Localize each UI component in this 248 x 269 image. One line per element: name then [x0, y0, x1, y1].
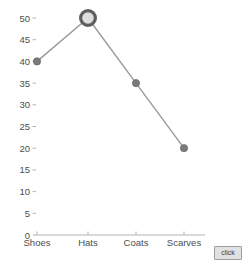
series-line-path: [37, 18, 184, 148]
click-button[interactable]: click: [214, 246, 242, 260]
data-point-markers[interactable]: [33, 11, 187, 152]
data-point-shoes[interactable]: [33, 58, 40, 65]
chart-canvas: 50 45 40 35 30 25 20 15 10 5 0: [0, 0, 248, 269]
data-point-scarves[interactable]: [180, 145, 187, 152]
x-axis-tick-labels: Shoes Hats Coats Scarves: [24, 237, 202, 248]
y-tick-label: 40: [19, 56, 30, 67]
y-tick-label: 25: [19, 121, 30, 132]
x-axis-tick-marks: [37, 232, 184, 236]
y-tick-label: 10: [19, 186, 30, 197]
y-tick-label: 5: [25, 208, 30, 219]
x-tick-label-hats: Hats: [78, 237, 98, 248]
x-tick-label-shoes: Shoes: [24, 237, 51, 248]
data-point-coats[interactable]: [132, 80, 139, 87]
x-tick-label-scarves: Scarves: [167, 237, 202, 248]
y-tick-label: 35: [19, 78, 30, 89]
y-axis-tick-labels: 50 45 40 35 30 25 20 15 10 5 0: [19, 13, 30, 241]
data-point-hats-selected[interactable]: [81, 11, 96, 26]
x-tick-label-coats: Coats: [124, 237, 149, 248]
y-tick-label: 50: [19, 13, 30, 24]
y-tick-label: 30: [19, 99, 30, 110]
y-tick-label: 45: [19, 34, 30, 45]
y-axis-tick-marks: [33, 18, 37, 213]
y-tick-label: 15: [19, 164, 30, 175]
line-chart-panel: 50 45 40 35 30 25 20 15 10 5 0: [0, 0, 248, 269]
y-tick-label: 20: [19, 143, 30, 154]
